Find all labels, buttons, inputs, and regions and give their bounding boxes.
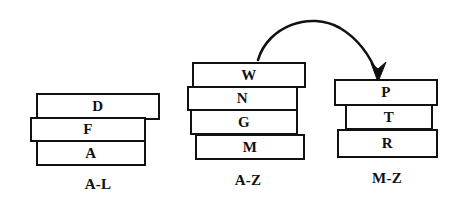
box-label: G [238, 115, 250, 130]
box-label: A [85, 146, 96, 161]
box-a[interactable]: A [36, 140, 146, 166]
stack-caption-a-z: A-Z [213, 172, 283, 189]
box-d[interactable]: D [36, 93, 160, 120]
box-label: F [83, 122, 93, 137]
box-label: P [381, 85, 391, 100]
box-label: D [92, 99, 103, 114]
box-m[interactable]: M [195, 134, 305, 160]
stack-caption-m-z: M-Z [351, 170, 423, 187]
diagram-canvas: D F A A-L W N G M A-Z P T R [0, 0, 466, 211]
box-label: W [241, 68, 257, 83]
box-label: M [243, 140, 258, 155]
box-n[interactable]: N [187, 86, 298, 111]
box-g[interactable]: G [190, 109, 298, 135]
stack-caption-a-l: A-L [63, 176, 133, 193]
box-w[interactable]: W [192, 62, 306, 88]
box-p[interactable]: P [334, 79, 438, 106]
box-t[interactable]: T [345, 104, 433, 130]
box-label: R [382, 136, 393, 151]
box-label: T [384, 110, 395, 125]
box-label: N [237, 91, 248, 106]
box-r[interactable]: R [337, 129, 438, 158]
box-f[interactable]: F [30, 117, 146, 142]
